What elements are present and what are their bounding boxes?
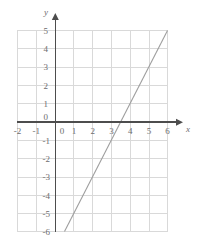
x-tick-labels: -2 -1 1 2 3 4 5 6	[14, 126, 171, 136]
y-tick-labels-negative: -1 -2 -3 -4 -5 -6	[43, 136, 51, 237]
origin-label: 0	[60, 126, 65, 136]
x-tick-label: 2	[90, 126, 95, 136]
y-tick-label: -6	[43, 227, 51, 237]
y-axis-label: y	[43, 7, 48, 17]
coordinate-graph: y x -2 -1 1 2 3 4 5 6 0 5 4 3 2 1 0 -1 -…	[0, 0, 198, 248]
y-tick-label-zero: 0	[44, 112, 49, 122]
y-tick-label: 3	[44, 62, 49, 72]
plotted-line	[65, 31, 168, 232]
x-tick-label: 1	[72, 126, 77, 136]
graph-svg: y x -2 -1 1 2 3 4 5 6 0 5 4 3 2 1 0 -1 -…	[0, 0, 198, 248]
x-tick-label: 5	[147, 126, 152, 136]
y-tick-labels-positive: 5 4 3 2 1	[44, 26, 49, 109]
y-tick-label: 4	[44, 44, 49, 54]
y-tick-label: -3	[43, 172, 51, 182]
x-tick-label: 4	[128, 126, 133, 136]
x-axis-label: x	[185, 124, 190, 134]
y-tick-label: 1	[44, 99, 49, 109]
x-tick-label: 6	[165, 126, 170, 136]
y-tick-label: -4	[43, 191, 51, 201]
x-tick-label: -2	[14, 126, 22, 136]
x-tick-label: -1	[33, 126, 41, 136]
y-tick-label: -2	[43, 154, 51, 164]
x-tick-label: 3	[109, 126, 114, 136]
x-axis	[17, 119, 183, 126]
y-tick-label: 5	[44, 26, 49, 36]
y-tick-label: -1	[43, 136, 51, 146]
y-tick-label: 2	[44, 81, 49, 91]
y-tick-label: -5	[43, 209, 51, 219]
